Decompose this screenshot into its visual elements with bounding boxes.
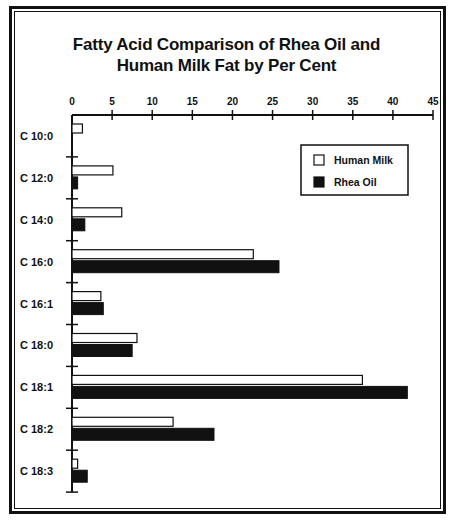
bar-human-milk [72, 166, 113, 175]
bar-rhea-oil [72, 177, 78, 189]
bar-rhea-oil [72, 386, 407, 398]
bar-human-milk [72, 250, 253, 259]
bar-human-milk [72, 459, 78, 468]
bar-rhea-oil [72, 219, 85, 231]
x-tick-label: 30 [307, 96, 319, 107]
bar-chart: 051015202530354045 C 10:0C 12:0C 14:0C 1… [0, 0, 453, 520]
x-tick-label: 0 [69, 96, 75, 107]
bar-human-milk [72, 124, 82, 133]
x-tick-label: 15 [187, 96, 199, 107]
bar-human-milk [72, 375, 362, 384]
category-label: C 18:3 [20, 465, 53, 477]
category-label: C 16:0 [20, 256, 53, 268]
x-tick-label: 20 [227, 96, 239, 107]
y-axis: C 10:0C 12:0C 14:0C 16:0C 16:1C 18:0C 18… [20, 115, 78, 492]
category-label: C 16:1 [20, 298, 53, 310]
x-tick-label: 10 [147, 96, 159, 107]
category-label: C 12:0 [20, 172, 53, 184]
category-label: C 18:1 [20, 381, 53, 393]
bar-rhea-oil [72, 303, 103, 315]
legend: Human Milk Rhea Oil [301, 145, 408, 195]
bar-human-milk [72, 417, 173, 426]
bar-rhea-oil [72, 345, 132, 357]
legend-swatch-rhea-oil [314, 177, 324, 187]
category-label: C 18:2 [20, 423, 53, 435]
bar-human-milk [72, 292, 101, 301]
x-tick-label: 35 [347, 96, 359, 107]
x-tick-label: 40 [387, 96, 399, 107]
category-label: C 14:0 [20, 214, 53, 226]
x-tick-label: 45 [427, 96, 439, 107]
legend-label-human-milk: Human Milk [334, 154, 393, 166]
x-axis: 051015202530354045 [69, 96, 439, 120]
bar-rhea-oil [72, 261, 279, 273]
category-label: C 18:0 [20, 339, 53, 351]
bar-rhea-oil [72, 470, 87, 482]
legend-swatch-human-milk [314, 155, 324, 165]
legend-label-rhea-oil: Rhea Oil [334, 176, 377, 188]
category-label: C 10:0 [20, 130, 53, 142]
bar-rhea-oil [72, 428, 214, 440]
bar-human-milk [72, 334, 137, 343]
bar-human-milk [72, 208, 122, 217]
x-tick-label: 25 [267, 96, 279, 107]
x-tick-label: 5 [109, 96, 115, 107]
